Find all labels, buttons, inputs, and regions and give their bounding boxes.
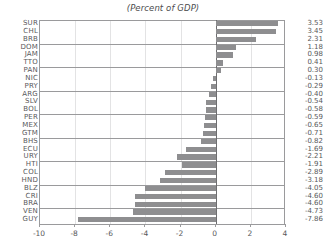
bar-row	[40, 44, 284, 51]
bar	[204, 123, 215, 128]
bar-row	[40, 106, 284, 113]
bar	[206, 100, 215, 105]
x-tick-label: -10	[24, 229, 54, 238]
category-label: BRB	[8, 36, 38, 43]
bar	[216, 60, 223, 65]
bar-row	[40, 185, 284, 192]
value-label: -7.86	[289, 216, 323, 223]
bar-row	[40, 83, 284, 90]
bar-row	[40, 153, 284, 160]
value-label: 2.31	[289, 36, 323, 43]
bar	[133, 209, 216, 214]
bar-row	[40, 75, 284, 82]
category-label: GUY	[8, 216, 38, 223]
bar-row	[40, 51, 284, 58]
bar-row	[40, 114, 284, 121]
x-tick-label: 0	[200, 229, 230, 238]
x-tick-label: 2	[235, 229, 265, 238]
bar	[216, 45, 237, 50]
bar	[216, 68, 221, 73]
plot-area	[39, 20, 285, 224]
bar	[135, 202, 216, 207]
x-tick-mark	[285, 224, 286, 227]
x-tick-mark	[109, 224, 110, 227]
bar-row	[40, 122, 284, 129]
x-tick-mark	[215, 224, 216, 227]
x-tick-mark	[144, 224, 145, 227]
x-tick-label: -8	[59, 229, 89, 238]
bar	[205, 115, 215, 120]
bar	[209, 92, 216, 97]
bar	[177, 154, 216, 159]
x-tick-mark	[250, 224, 251, 227]
bar-row	[40, 146, 284, 153]
bar-row	[40, 208, 284, 215]
bar-row	[40, 36, 284, 43]
value-label: -0.82	[289, 138, 323, 145]
bar	[145, 186, 216, 191]
bar-row	[40, 161, 284, 168]
x-tick-mark	[74, 224, 75, 227]
bar	[201, 139, 215, 144]
bar	[160, 178, 216, 183]
bar	[216, 21, 278, 26]
bar-row	[40, 169, 284, 176]
bar	[135, 194, 216, 199]
bar-row	[40, 216, 284, 223]
x-axis-line	[39, 224, 285, 225]
bar-chart: (Percent of GDP) SUR3.53CHL3.45BRB2.31DO…	[0, 0, 326, 250]
x-tick-mark	[180, 224, 181, 227]
bar	[216, 52, 233, 57]
bar	[203, 131, 215, 136]
bar	[216, 29, 277, 34]
category-label: BHS	[8, 138, 38, 145]
x-tick-label: -6	[94, 229, 124, 238]
bar	[182, 162, 216, 167]
bar	[186, 147, 216, 152]
bar-row	[40, 193, 284, 200]
bar-row	[40, 59, 284, 66]
bar-row	[40, 98, 284, 105]
bar	[213, 76, 215, 81]
bar-row	[40, 177, 284, 184]
x-tick-label: -4	[129, 229, 159, 238]
bar	[216, 37, 257, 42]
bar-row	[40, 28, 284, 35]
bar	[165, 170, 216, 175]
bar	[78, 217, 216, 222]
bar-row	[40, 67, 284, 74]
bar	[206, 107, 216, 112]
bar-row	[40, 130, 284, 137]
bar-row	[40, 20, 284, 27]
bar-row	[40, 138, 284, 145]
x-tick-label: -2	[165, 229, 195, 238]
bar-row	[40, 91, 284, 98]
x-tick-label: 4	[270, 229, 300, 238]
x-tick-mark	[39, 224, 40, 227]
chart-title: (Percent of GDP)	[0, 3, 326, 13]
bar-row	[40, 200, 284, 207]
bar	[211, 84, 216, 89]
